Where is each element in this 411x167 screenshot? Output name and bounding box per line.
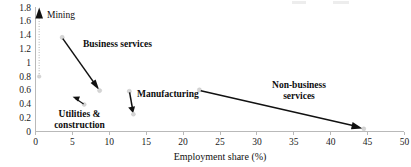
x-tick-label: 40 (326, 137, 336, 147)
arrowhead-business-services (91, 79, 100, 90)
y-tick-label: 0.8 (19, 72, 31, 82)
top-edge-artifact (292, 1, 306, 4)
y-tick-label: 0 (26, 127, 31, 137)
y-tick-label: 0.6 (19, 85, 31, 95)
data-point-manufacturing-end (131, 112, 135, 116)
annotation-mining: Mining (47, 10, 75, 20)
data-point-mining-start (37, 75, 41, 79)
y-axis-tick-labels: 1.8 1.6 1.4 1.2 1 0.8 0.6 0.4 0.2 0 (19, 3, 31, 137)
x-tick-label: 20 (178, 137, 188, 147)
annotation-nonbusiness-line2: services (283, 91, 315, 101)
chart-container: 1.8 1.6 1.4 1.2 1 0.8 0.6 0.4 0.2 0 (0, 0, 411, 167)
series-mining (35, 8, 43, 79)
x-tick-label: 30 (252, 137, 262, 147)
annotation-utilities-line2: construction (54, 120, 105, 130)
x-axis-title: Employment share (%) (174, 151, 267, 163)
x-tick-label: 45 (363, 137, 373, 147)
x-tick-label: 15 (141, 137, 151, 147)
series-utilities-construction (73, 96, 87, 106)
annotation-manufacturing: Manufacturing (137, 89, 199, 99)
y-tick-label: 1.6 (19, 16, 31, 26)
x-tick-label: 5 (70, 137, 75, 147)
x-tick-label: 35 (289, 137, 299, 147)
y-tick-label: 0.4 (19, 99, 31, 109)
y-tick-label: 1.2 (19, 44, 31, 54)
annotation-nonbusiness-line1: Non-business (272, 80, 326, 90)
y-tick-label: 1.4 (19, 30, 31, 40)
annotation-utilities-line1: Utilities & (59, 109, 101, 119)
y-tick-label: 1 (26, 58, 31, 68)
scatter-plot: 1.8 1.6 1.4 1.2 1 0.8 0.6 0.4 0.2 0 (0, 0, 411, 167)
y-tick-label: 0.2 (19, 113, 31, 123)
x-tick-label: 25 (215, 137, 225, 147)
x-tick-label: 0 (33, 137, 38, 147)
x-axis-tick-labels: 0 5 10 15 20 25 30 35 40 45 50 (33, 137, 409, 147)
x-tick-label: 50 (400, 137, 410, 147)
arrowhead-nonbusiness (351, 122, 363, 129)
y-tick-label: 1.8 (19, 3, 31, 13)
series-nonbusiness-services (197, 88, 366, 131)
data-point-nonbusiness-end (362, 127, 366, 131)
series-manufacturing (127, 89, 135, 116)
x-tick-label: 10 (105, 137, 115, 147)
data-point-business-services-end (98, 89, 102, 93)
annotation-business-services: Business services (83, 39, 152, 49)
arrowhead-mining (35, 8, 43, 19)
top-edge-artifact-2 (333, 1, 349, 4)
